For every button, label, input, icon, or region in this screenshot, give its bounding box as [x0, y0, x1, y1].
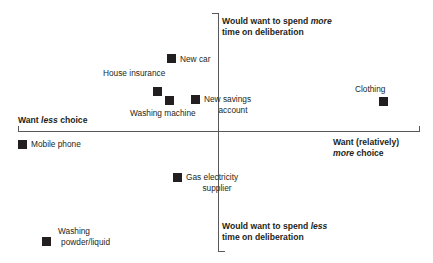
axis-tick-left-end [18, 126, 19, 132]
data-point-label: New car [180, 54, 210, 65]
data-point-label-group: New savings account [204, 94, 262, 115]
data-point-marker [167, 54, 176, 63]
axis-caption-top: Would want to spend more time on deliber… [222, 16, 372, 38]
data-point-marker [191, 95, 200, 104]
data-point-marker [379, 97, 388, 106]
horizontal-axis [18, 131, 420, 132]
data-point-label: Gas electricity [186, 172, 238, 182]
data-point-label-group: Gas electricity supplier [186, 172, 248, 193]
axis-caption-right: Want (relatively) more choice [333, 137, 433, 159]
data-point-label: Mobile phone [31, 139, 81, 150]
data-point-label: Washing machine [130, 108, 196, 119]
data-point-label: New savings [204, 94, 251, 104]
data-point-label-line2: account [204, 105, 262, 116]
emphasis-less: less [311, 221, 328, 231]
quadrant-scatter-chart: Would want to spend more time on deliber… [0, 0, 433, 263]
vertical-axis [218, 13, 219, 252]
emphasis-more: more [311, 16, 332, 26]
emphasis-less: less [41, 115, 58, 125]
data-point-marker [18, 140, 27, 149]
emphasis-more: more [333, 148, 354, 158]
data-point-marker [165, 96, 174, 105]
data-point-label-line2: supplier [186, 183, 248, 194]
axis-tick-bottom-end [218, 251, 225, 252]
data-point-marker [173, 173, 182, 182]
data-point-label: Washing [58, 226, 90, 236]
data-point-marker [153, 87, 162, 96]
axis-tick-right-end [419, 126, 420, 132]
axis-caption-bottom: Would want to spend less time on deliber… [222, 221, 372, 243]
axis-tick-top-end [212, 13, 219, 14]
data-point-label: House insurance [103, 68, 165, 79]
data-point-marker [42, 237, 51, 246]
data-point-label: Clothing [355, 84, 385, 95]
